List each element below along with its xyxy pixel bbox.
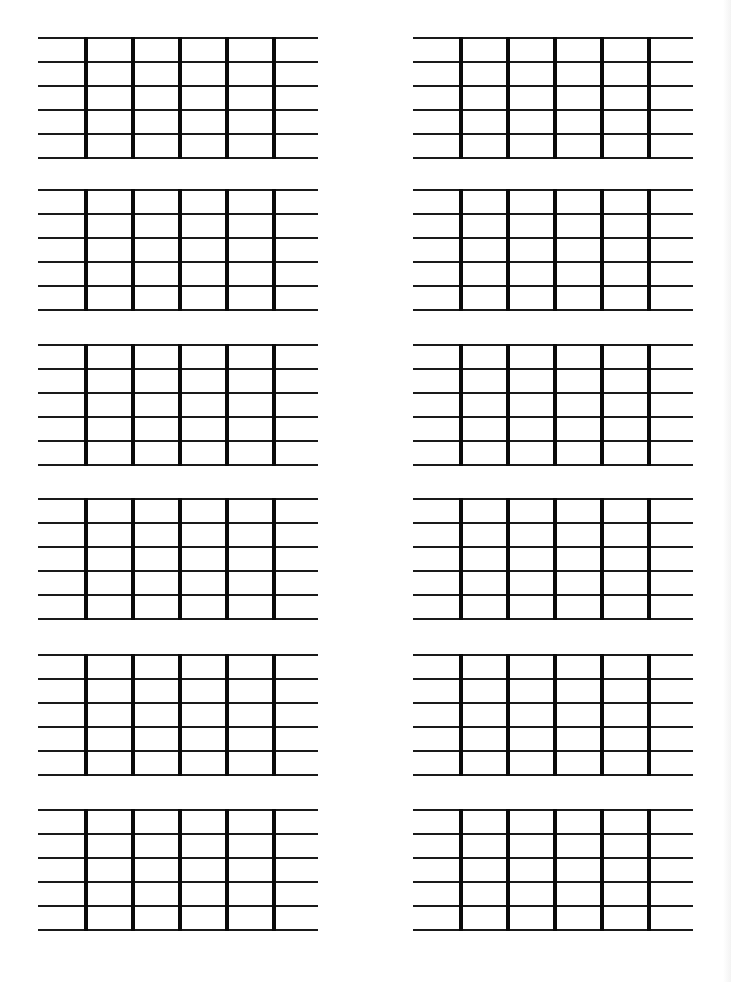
fretboard-diagram-9: [38, 654, 320, 776]
fret-line: [459, 809, 463, 931]
fret-line: [600, 809, 604, 931]
fret-line: [225, 189, 229, 311]
fret-line: [84, 344, 88, 466]
fretboard-diagram-2: [413, 37, 695, 159]
fret-line: [647, 37, 651, 159]
fret-line: [225, 37, 229, 159]
fret-line: [647, 498, 651, 620]
fret-line: [553, 809, 557, 931]
fret-line: [131, 37, 135, 159]
fret-line: [647, 189, 651, 311]
fret-line: [647, 654, 651, 776]
fret-line: [84, 654, 88, 776]
fret-line: [272, 189, 276, 311]
fretboard-diagram-10: [413, 654, 695, 776]
fret-line: [225, 809, 229, 931]
fret-line: [131, 654, 135, 776]
fretboard-diagram-4: [413, 189, 695, 311]
fret-line: [553, 498, 557, 620]
fret-line: [506, 654, 510, 776]
fret-line: [647, 344, 651, 466]
fret-line: [131, 498, 135, 620]
fret-line: [506, 189, 510, 311]
fret-line: [178, 37, 182, 159]
fret-line: [84, 809, 88, 931]
fret-line: [506, 37, 510, 159]
fret-line: [506, 809, 510, 931]
page-edge-shadow: [723, 0, 731, 982]
fret-line: [84, 189, 88, 311]
fret-line: [178, 344, 182, 466]
fret-line: [272, 498, 276, 620]
fret-line: [84, 498, 88, 620]
fret-line: [225, 498, 229, 620]
fret-line: [84, 37, 88, 159]
fret-line: [600, 498, 604, 620]
fret-line: [553, 654, 557, 776]
fret-line: [131, 809, 135, 931]
fretboard-diagram-5: [38, 344, 320, 466]
fret-line: [178, 809, 182, 931]
fret-line: [272, 344, 276, 466]
fretboard-diagram-12: [413, 809, 695, 931]
fretboard-diagram-11: [38, 809, 320, 931]
fret-line: [600, 189, 604, 311]
fret-line: [459, 344, 463, 466]
fret-line: [459, 37, 463, 159]
fretboard-diagram-8: [413, 498, 695, 620]
fret-line: [131, 189, 135, 311]
fret-line: [600, 344, 604, 466]
fret-line: [506, 344, 510, 466]
fret-line: [459, 498, 463, 620]
fret-line: [272, 37, 276, 159]
blank-fretboard-sheet: [0, 0, 731, 982]
fret-line: [459, 189, 463, 311]
fret-line: [272, 654, 276, 776]
fret-line: [272, 809, 276, 931]
fret-line: [553, 189, 557, 311]
fretboard-diagram-7: [38, 498, 320, 620]
fret-line: [459, 654, 463, 776]
fret-line: [225, 344, 229, 466]
fret-line: [600, 654, 604, 776]
fret-line: [600, 37, 604, 159]
fret-line: [553, 344, 557, 466]
fret-line: [225, 654, 229, 776]
fret-line: [178, 498, 182, 620]
fretboard-diagram-3: [38, 189, 320, 311]
fret-line: [647, 809, 651, 931]
fretboard-diagram-1: [38, 37, 320, 159]
fretboard-diagram-6: [413, 344, 695, 466]
fret-line: [178, 654, 182, 776]
fret-line: [506, 498, 510, 620]
fret-line: [178, 189, 182, 311]
fret-line: [131, 344, 135, 466]
fret-line: [553, 37, 557, 159]
